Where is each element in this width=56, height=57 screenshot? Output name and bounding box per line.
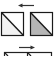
square-light-icon <box>2 13 24 36</box>
flip-swap-icon <box>0 0 56 56</box>
arrow-right-icon <box>19 46 35 50</box>
square-dark-icon <box>31 13 53 36</box>
arrow-left-icon <box>18 4 34 8</box>
flip-swap-graphic <box>0 0 56 56</box>
bottom-squares-icon <box>5 53 52 57</box>
